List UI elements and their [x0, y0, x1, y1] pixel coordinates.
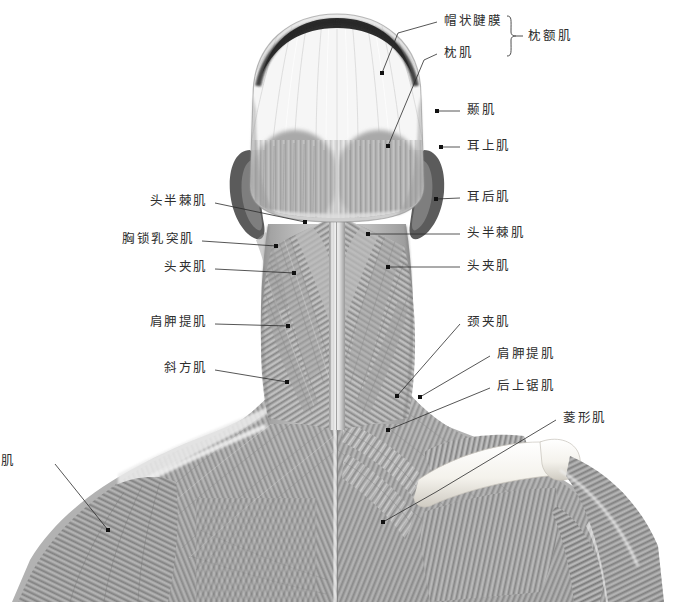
muscle-label-levator-scapulae-right[interactable]: 肩胛提肌: [497, 348, 555, 361]
muscle-label-galea-aponeurotica[interactable]: 帽状腱膜: [444, 15, 502, 28]
muscle-label-occipitalis[interactable]: 枕肌: [444, 47, 473, 60]
muscle-label-splenius-cervicis[interactable]: 颈夹肌: [467, 316, 511, 329]
muscle-label-serratus-posterior-superior[interactable]: 后上锯肌: [497, 380, 555, 393]
muscle-label-semispinalis-capitis-right[interactable]: 头半棘肌: [467, 227, 525, 240]
muscle-label-trapezius[interactable]: 斜方肌: [164, 362, 208, 375]
muscle-label-auricularis-posterior[interactable]: 耳后肌: [467, 191, 511, 204]
muscle-label-deltoid[interactable]: 三角肌: [0, 455, 16, 468]
muscle-group-label-occipitofrontalis-bracket[interactable]: 枕额肌: [528, 30, 572, 43]
muscle-label-levator-scapulae-left[interactable]: 肩胛提肌: [150, 316, 208, 329]
muscle-label-splenius-capitis-right[interactable]: 头夹肌: [467, 260, 511, 273]
muscle-label-auricularis-superior[interactable]: 耳上肌: [467, 140, 511, 153]
anatomy-figure-canvas: 帽状腱膜枕肌颞肌耳上肌耳后肌头半棘肌头夹肌颈夹肌肩胛提肌后上锯肌菱形肌头半棘肌胸…: [0, 0, 674, 602]
muscle-label-rhomboid[interactable]: 菱形肌: [563, 412, 607, 425]
neck-group: [250, 210, 424, 440]
muscle-label-sternocleidomastoid[interactable]: 胸锁乳突肌: [122, 233, 195, 246]
posterior-neck-anatomy-illustration: [0, 0, 674, 602]
muscle-label-splenius-capitis-left[interactable]: 头夹肌: [164, 261, 208, 274]
muscle-label-temporalis[interactable]: 颞肌: [467, 104, 496, 117]
muscle-label-semispinalis-capitis-left[interactable]: 头半棘肌: [150, 195, 208, 208]
